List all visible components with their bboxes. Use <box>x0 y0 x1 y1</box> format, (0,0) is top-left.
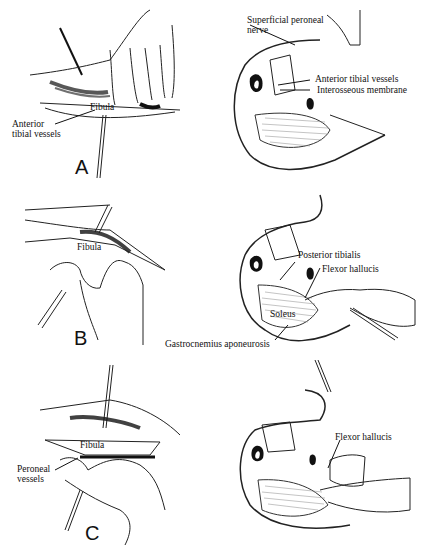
panel-b-drawing <box>0 180 210 360</box>
panel-c-cross-section: Flexor hallucis <box>210 360 421 548</box>
label-flexor-hallucis: Flexor hallucis <box>322 264 379 274</box>
panel-b-cross-section-drawing <box>210 180 421 360</box>
label-fibula: Fibula <box>80 440 104 450</box>
label-flexor-hallucis: Flexor hallucis <box>335 432 392 442</box>
label-gastrocnemius-aponeurosis: Gastrocnemius aponeurosis <box>165 339 270 349</box>
label-anterior-tibial-vessels: Anterior tibial vessels <box>315 74 398 84</box>
panel-a-drawing <box>0 0 210 180</box>
label-anterior-tibial-vessels-line1: Anterior <box>12 119 44 129</box>
panel-c-surgical-view: Fibula Peroneal vessels C <box>0 360 210 548</box>
panel-letter-a: A <box>75 156 88 179</box>
label-fibula: Fibula <box>77 242 101 252</box>
label-posterior-tibialis: Posterior tibialis <box>298 250 361 260</box>
label-interosseous-membrane: Interosseous membrane <box>317 85 407 95</box>
panel-a-surgical-view: Fibula Anterior tibial vessels A <box>0 0 210 180</box>
label-peroneal-vessels-line2: vessels <box>17 474 44 484</box>
panel-letter-c: C <box>85 522 99 545</box>
panel-a-cross-section: Superficial peroneal nerve Anterior tibi… <box>210 0 421 180</box>
panel-letter-b: B <box>74 327 87 350</box>
label-anterior-tibial-vessels-line2: tibial vessels <box>12 129 61 139</box>
label-superficial-peroneal-nerve-line1: Superficial peroneal <box>247 15 324 25</box>
panel-b-surgical-view: Fibula B <box>0 180 210 360</box>
panel-c-cross-section-drawing <box>210 360 421 548</box>
panel-b-cross-section: Posterior tibialis Flexor hallucis Soleu… <box>210 180 421 360</box>
panel-c-drawing <box>0 360 210 548</box>
label-fibula: Fibula <box>90 102 114 112</box>
label-soleus: Soleus <box>270 309 295 319</box>
label-superficial-peroneal-nerve-line2: nerve <box>247 25 268 35</box>
label-peroneal-vessels-line1: Peroneal <box>17 464 50 474</box>
